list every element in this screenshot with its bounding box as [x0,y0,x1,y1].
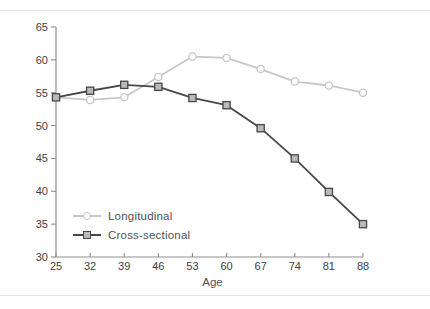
data-point-longitudinal-age-39 [121,94,128,101]
data-point-cross-sectional-age-60 [223,102,230,109]
data-point-longitudinal-age-81 [325,82,332,89]
x-tick-label: 25 [50,260,62,272]
data-point-longitudinal-age-46 [155,73,162,80]
data-point-longitudinal-age-74 [291,78,298,85]
data-point-longitudinal-age-67 [257,65,264,72]
x-tick-label: 39 [118,260,130,272]
x-tick-label: 46 [152,260,164,272]
cross-sectional-line-swatch [73,227,101,243]
x-tick-label: 67 [255,260,267,272]
longitudinal-line-swatch [73,208,101,224]
data-point-longitudinal-age-60 [223,54,230,61]
y-tick-label: 50 [36,120,48,132]
y-tick-label: 45 [36,152,48,164]
x-tick-label: 74 [289,260,301,272]
data-point-longitudinal-age-88 [359,89,366,96]
legend-item-longitudinal: Longitudinal [73,208,190,224]
x-tick-label: 88 [357,260,369,272]
line-chart: 303540455055606525323946536067748188Age [0,0,430,309]
data-point-cross-sectional-age-81 [325,188,332,195]
x-tick-label: 81 [323,260,335,272]
data-point-cross-sectional-age-74 [291,155,298,162]
legend-label-cross-sectional: Cross-sectional [108,229,190,241]
y-tick-label: 30 [36,251,48,263]
y-tick-label: 60 [36,54,48,66]
series-line-cross-sectional [56,85,363,224]
y-tick-label: 55 [36,87,48,99]
y-tick-label: 65 [36,21,48,33]
figure-page: 303540455055606525323946536067748188Age … [0,0,430,309]
chart-legend: Longitudinal Cross-sectional [73,208,190,246]
y-tick-label: 35 [36,218,48,230]
legend-item-cross-sectional: Cross-sectional [73,227,190,243]
x-tick-label: 60 [220,260,232,272]
series-line-longitudinal [56,57,363,100]
x-tick-label: 53 [186,260,198,272]
y-tick-label: 40 [36,185,48,197]
data-point-cross-sectional-age-67 [257,125,264,132]
circle-marker-icon [83,212,91,220]
bottom-rule [0,295,430,296]
data-point-cross-sectional-age-46 [155,83,162,90]
legend-label-longitudinal: Longitudinal [108,210,172,222]
data-point-cross-sectional-age-88 [359,221,366,228]
data-point-cross-sectional-age-32 [87,87,94,94]
data-point-cross-sectional-age-39 [121,81,128,88]
data-point-longitudinal-age-53 [189,53,196,60]
data-point-longitudinal-age-32 [87,96,94,103]
x-axis-title: Age [202,276,222,288]
x-tick-label: 32 [84,260,96,272]
data-point-cross-sectional-age-25 [52,94,59,101]
square-marker-icon [83,231,91,239]
data-point-cross-sectional-age-53 [189,94,196,101]
